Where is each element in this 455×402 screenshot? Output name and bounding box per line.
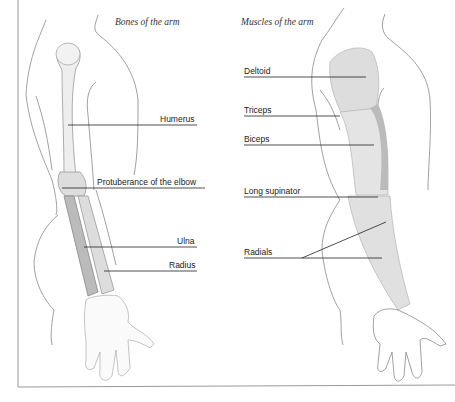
muscles-title: Muscles of the arm <box>241 17 314 27</box>
label-radials: Radials <box>244 247 272 257</box>
forearm-bones <box>64 196 114 296</box>
humerus-bone <box>56 43 86 196</box>
arm-anatomy-diagram: Bones of the arm Muscles of the arm Hume… <box>0 0 455 402</box>
hand-bones <box>85 295 155 380</box>
bones-title: Bones of the arm <box>115 17 180 27</box>
label-humerus: Humerus <box>160 114 194 124</box>
label-triceps: Triceps <box>244 105 272 115</box>
label-ulna: Ulna <box>177 236 194 246</box>
right-hand-outline <box>373 309 446 381</box>
label-elbow: Protuberance of the elbow <box>97 177 196 187</box>
label-long-supinator: Long supinator <box>244 186 300 196</box>
label-radius: Radius <box>169 260 195 270</box>
label-deltoid: Deltoid <box>244 66 270 76</box>
diagram-artwork <box>0 0 455 402</box>
arm-muscles <box>330 48 410 310</box>
label-biceps: Biceps <box>244 134 270 144</box>
